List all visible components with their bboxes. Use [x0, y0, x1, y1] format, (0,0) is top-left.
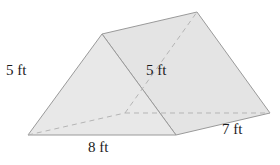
base-width-label: 8 ft: [88, 139, 108, 156]
triangular-prism-diagram: 5 ft 5 ft 8 ft 7 ft: [0, 0, 280, 165]
height-label: 5 ft: [146, 62, 166, 79]
prism-drawing: [0, 0, 280, 165]
slant-side-label: 5 ft: [6, 62, 26, 79]
length-label: 7 ft: [222, 121, 242, 138]
